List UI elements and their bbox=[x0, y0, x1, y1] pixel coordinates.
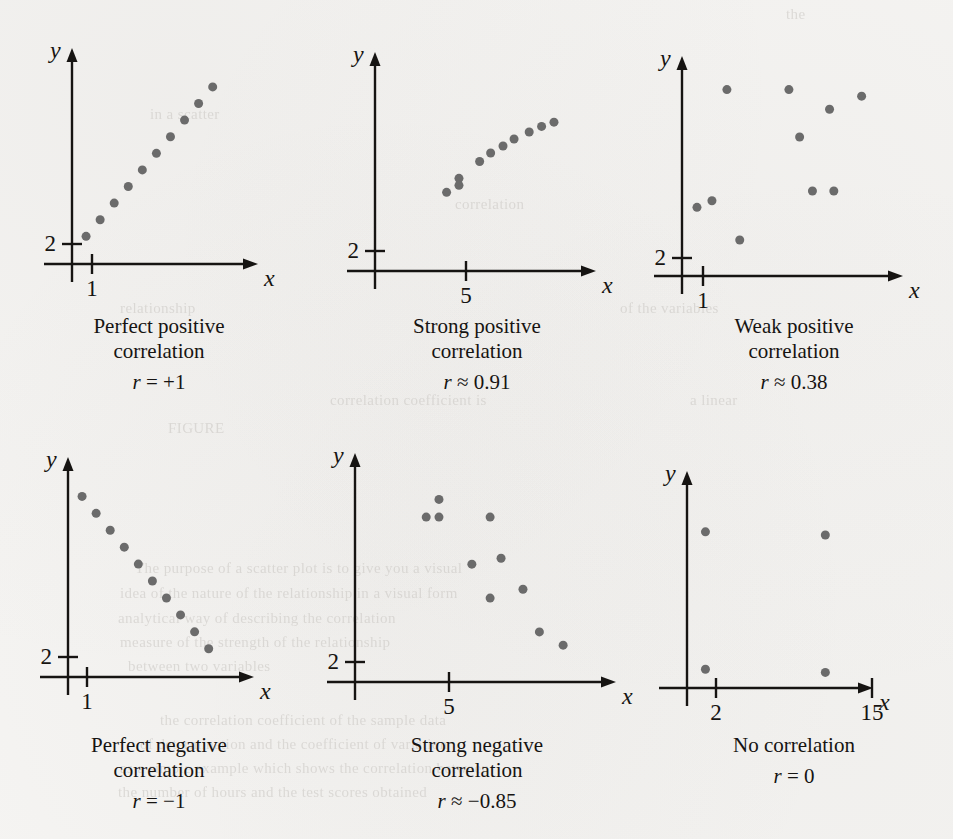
x-axis-tick-label: 1 bbox=[81, 689, 93, 714]
y-axis-arrowhead bbox=[370, 52, 381, 66]
x-axis-arrowhead bbox=[581, 266, 596, 277]
x-axis-label: x bbox=[259, 678, 271, 704]
caption-line-2: correlation bbox=[318, 758, 636, 783]
r-number: ≈ −0.85 bbox=[451, 789, 516, 813]
x-axis-tick-label: 1 bbox=[697, 288, 709, 313]
data-point bbox=[78, 492, 87, 501]
y-axis-label: y bbox=[48, 37, 61, 63]
scatter-panel-strong-negative: 25xyStrong negativecorrelationr ≈ −0.85 bbox=[318, 437, 636, 839]
data-point bbox=[434, 513, 443, 522]
scatter-panel-weak-positive: 21xyWeak positivecorrelationr ≈ 0.38 bbox=[635, 18, 953, 437]
scatter-panel-no-correlation: 215xyNo correlationr = 0 bbox=[635, 437, 953, 839]
x-axis-arrowhead bbox=[601, 677, 616, 688]
panel-caption-no-correlation: No correlationr = 0 bbox=[635, 733, 953, 789]
x-axis-label: x bbox=[601, 272, 613, 298]
figure-panel-grid: 21xyPerfect positivecorrelationr = +125x… bbox=[0, 0, 953, 839]
y-axis-tick-label: 2 bbox=[348, 238, 360, 263]
r-symbol: r bbox=[773, 764, 781, 788]
plot-area-perfect-positive: 21xy bbox=[0, 18, 318, 318]
y-axis-arrowhead bbox=[350, 453, 361, 467]
y-axis-label: y bbox=[663, 460, 676, 486]
plot-area-weak-positive: 21xy bbox=[635, 18, 953, 318]
y-axis-arrowhead bbox=[677, 56, 688, 70]
x-axis-label: x bbox=[263, 265, 275, 291]
correlation-coefficient-value: r ≈ 0.91 bbox=[318, 370, 636, 395]
correlation-coefficient-value: r = −1 bbox=[0, 789, 318, 814]
data-point bbox=[735, 236, 744, 245]
y-axis-tick-label: 2 bbox=[655, 245, 667, 270]
data-point bbox=[486, 149, 495, 158]
caption-line-1: No correlation bbox=[635, 733, 953, 758]
data-point bbox=[208, 82, 217, 91]
caption-line-1: Perfect negative bbox=[0, 733, 318, 758]
r-number: ≈ 0.38 bbox=[774, 370, 828, 394]
x-axis-label: x bbox=[878, 689, 890, 715]
data-point bbox=[808, 186, 817, 195]
r-symbol: r bbox=[761, 370, 769, 394]
caption-line-1: Weak positive bbox=[635, 314, 953, 339]
data-point bbox=[434, 495, 443, 504]
x-axis-arrowhead bbox=[239, 672, 254, 683]
caption-line-1: Perfect positive bbox=[0, 314, 318, 339]
y-axis-label: y bbox=[658, 45, 671, 71]
data-point bbox=[110, 199, 119, 208]
y-axis-arrowhead bbox=[63, 457, 74, 471]
data-point bbox=[722, 85, 731, 94]
data-point bbox=[549, 118, 558, 127]
r-number: = −1 bbox=[146, 789, 185, 813]
correlation-coefficient-value: r = +1 bbox=[0, 370, 318, 395]
r-symbol: r bbox=[133, 370, 141, 394]
data-point bbox=[148, 577, 157, 586]
x-axis-label: x bbox=[908, 277, 920, 303]
data-point bbox=[537, 122, 546, 131]
data-point bbox=[559, 641, 568, 650]
scatter-panel-strong-positive: 25xyStrong positivecorrelationr ≈ 0.91 bbox=[318, 18, 636, 437]
x-axis-tick-label: 5 bbox=[443, 694, 455, 719]
x-axis-arrowhead bbox=[243, 259, 258, 270]
caption-line-2: correlation bbox=[635, 339, 953, 364]
data-point bbox=[821, 530, 830, 539]
y-axis-label: y bbox=[44, 446, 57, 472]
panel-caption-perfect-positive: Perfect positivecorrelationr = +1 bbox=[0, 314, 318, 395]
caption-line-2: correlation bbox=[318, 339, 636, 364]
data-point bbox=[535, 627, 544, 636]
data-point bbox=[692, 203, 701, 212]
data-point bbox=[106, 526, 115, 535]
data-point bbox=[442, 188, 451, 197]
y-axis-arrowhead bbox=[682, 471, 693, 485]
data-point bbox=[190, 627, 199, 636]
data-point bbox=[82, 232, 91, 241]
plot-area-no-correlation: 215xy bbox=[635, 437, 953, 737]
data-point bbox=[486, 594, 495, 603]
y-axis-label: y bbox=[331, 442, 344, 468]
panel-caption-perfect-negative: Perfect negativecorrelationr = −1 bbox=[0, 733, 318, 814]
caption-line-1: Strong positive bbox=[318, 314, 636, 339]
scatter-panel-perfect-negative: 21xyPerfect negativecorrelationr = −1 bbox=[0, 437, 318, 839]
r-number: ≈ 0.91 bbox=[457, 370, 511, 394]
data-point bbox=[497, 554, 506, 563]
y-axis-label: y bbox=[351, 41, 364, 67]
data-point bbox=[510, 135, 519, 144]
data-point bbox=[422, 513, 431, 522]
caption-line-1: Strong negative bbox=[318, 733, 636, 758]
caption-line-2: correlation bbox=[0, 758, 318, 783]
data-point bbox=[124, 182, 133, 191]
y-axis-tick-label: 2 bbox=[41, 644, 53, 669]
data-point bbox=[825, 105, 834, 114]
x-axis-arrowhead bbox=[888, 271, 903, 282]
data-point bbox=[120, 543, 129, 552]
x-axis-tick-label: 1 bbox=[86, 276, 98, 301]
correlation-coefficient-value: r = 0 bbox=[635, 764, 953, 789]
y-axis-tick-label: 2 bbox=[328, 649, 340, 674]
r-number: = 0 bbox=[787, 764, 815, 788]
correlation-coefficient-value: r ≈ 0.38 bbox=[635, 370, 953, 395]
data-point bbox=[152, 149, 161, 158]
data-point bbox=[701, 665, 710, 674]
data-point bbox=[162, 593, 171, 602]
data-point bbox=[138, 165, 147, 174]
data-point bbox=[96, 215, 105, 224]
caption-line-2: correlation bbox=[0, 339, 318, 364]
data-point bbox=[176, 610, 185, 619]
y-axis-arrowhead bbox=[67, 48, 78, 62]
panel-caption-weak-positive: Weak positivecorrelationr ≈ 0.38 bbox=[635, 314, 953, 395]
